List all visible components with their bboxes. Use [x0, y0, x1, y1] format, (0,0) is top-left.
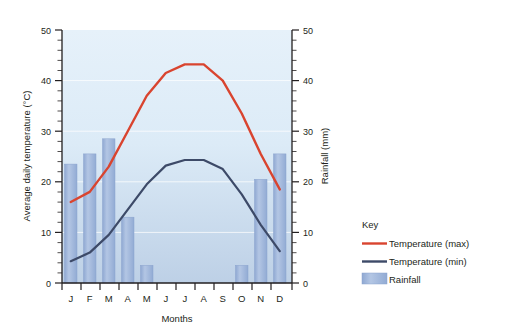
- bar-O: [236, 265, 249, 283]
- legend-label-temperature-max: Temperature (max): [389, 238, 469, 249]
- month-label-feb: F: [87, 293, 93, 304]
- month-label-aug: A: [201, 293, 208, 304]
- bar-F: [84, 154, 97, 283]
- bar-D: [274, 154, 287, 283]
- right-tick-20: 20: [303, 177, 313, 187]
- legend-heading: Key: [362, 219, 379, 230]
- legend-label-temperature-min: Temperature (min): [389, 256, 467, 267]
- left-tick-40: 40: [41, 76, 51, 86]
- bar-A: [122, 217, 135, 283]
- month-label-mar: M: [105, 293, 113, 304]
- right-tick-0: 0: [303, 279, 308, 289]
- legend-label-rainfall: Rainfall: [389, 274, 421, 285]
- month-label-jan: J: [68, 293, 73, 304]
- bar-J: [65, 164, 78, 283]
- bottom-axis-title: Months: [161, 313, 192, 324]
- right-tick-50: 50: [303, 26, 313, 36]
- left-tick-10: 10: [41, 228, 51, 238]
- month-label-apr: A: [125, 293, 132, 304]
- right-tick-10: 10: [303, 228, 313, 238]
- legend-item-rainfall: Rainfall: [362, 273, 421, 285]
- month-label-nov: N: [257, 293, 264, 304]
- left-axis-title: Average daily temperature (°C): [21, 91, 32, 222]
- left-tick-0: 0: [46, 279, 51, 289]
- right-tick-30: 30: [303, 127, 313, 137]
- month-label-may: M: [143, 293, 151, 304]
- month-label-dec: D: [276, 293, 283, 304]
- month-label-jun: J: [163, 293, 168, 304]
- month-label-sep: S: [220, 293, 226, 304]
- right-tick-40: 40: [303, 76, 313, 86]
- chart-canvas: 0 10 20 30 40 50 Average daily temperatu…: [0, 0, 512, 335]
- left-tick-20: 20: [41, 177, 51, 187]
- left-tick-50: 50: [41, 26, 51, 36]
- legend-swatch-bar-rainfall: [362, 273, 387, 284]
- left-tick-30: 30: [41, 127, 51, 137]
- month-label-oct: O: [238, 293, 245, 304]
- month-label-jul: J: [182, 293, 187, 304]
- right-axis-title: Rainfall (mm): [319, 128, 330, 184]
- bar-M2: [141, 265, 154, 283]
- climate-chart-figure: 0 10 20 30 40 50 Average daily temperatu…: [0, 0, 512, 335]
